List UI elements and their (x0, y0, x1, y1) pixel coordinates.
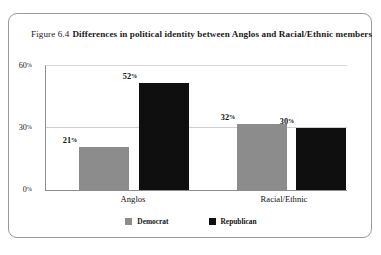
bar-label-anglos-democrat: 21% (45, 136, 95, 145)
bar-anglos-republican (139, 83, 189, 190)
legend-swatch-republican-icon (209, 218, 216, 225)
plot-area (45, 65, 347, 191)
legend-swatch-democrat-icon (125, 218, 132, 225)
bar-anglos-democrat (79, 147, 129, 190)
x-axis-label-racial-ethnic: Racial/Ethnic (229, 194, 339, 204)
y-axis-tick-0: 0% (0, 185, 32, 194)
x-axis-label-anglos: Anglos (78, 194, 188, 204)
bar-chart: 60% 30% 0% 21% 52% 32% 30% Anglos Racial… (9, 14, 373, 239)
legend-label-democrat: Democrat (137, 217, 168, 226)
legend-label-republican: Republican (221, 217, 257, 226)
bar-racial-republican (296, 128, 346, 190)
legend-item-democrat: Democrat (125, 217, 168, 226)
bar-label-anglos-republican: 52% (105, 72, 155, 81)
bar-racial-democrat (237, 124, 287, 190)
figure-card: Figure 6.4Differences in political ident… (8, 13, 372, 238)
legend-item-republican: Republican (209, 217, 257, 226)
bar-label-racial-democrat: 32% (203, 113, 253, 122)
y-axis-tick-30: 30% (0, 123, 32, 132)
chart-legend: Democrat Republican (9, 217, 373, 226)
y-axis-tick-60: 60% (0, 61, 32, 70)
bar-label-racial-republican: 30% (262, 117, 312, 126)
